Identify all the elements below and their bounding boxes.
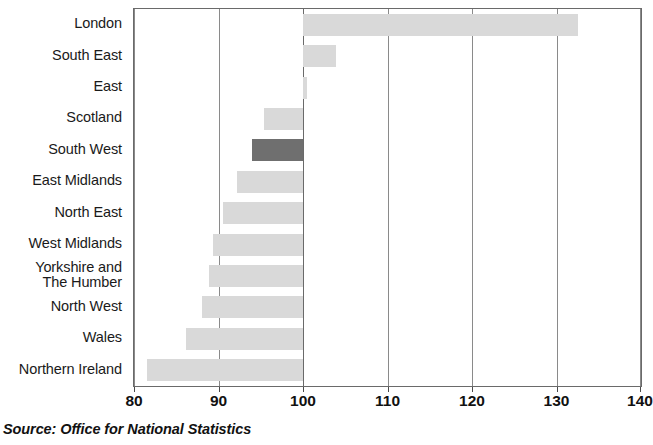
x-tick-label: 130	[544, 392, 570, 410]
category-label: North West	[51, 299, 122, 314]
category-label-column: LondonSouth EastEastScotlandSouth WestEa…	[0, 0, 128, 382]
bar[interactable]	[202, 296, 303, 318]
category-label: Wales	[83, 330, 122, 345]
category-label: East Midlands	[32, 173, 122, 188]
x-tick-label: 100	[290, 392, 316, 410]
bar[interactable]	[209, 265, 303, 287]
x-tick-label: 120	[459, 392, 485, 410]
bar-row	[134, 72, 641, 103]
bar[interactable]	[264, 108, 303, 130]
bar-row	[134, 135, 641, 166]
category-label: East	[93, 79, 122, 94]
x-tick-label: 80	[125, 392, 142, 410]
x-tick-label: 90	[210, 392, 227, 410]
bar-row	[134, 355, 641, 386]
plot-area	[133, 8, 642, 387]
category-label: North East	[55, 205, 123, 220]
bar-row	[134, 260, 641, 291]
bar-row	[134, 292, 641, 323]
bar-row	[134, 166, 641, 197]
category-label: Northern Ireland	[19, 362, 122, 377]
bar-row	[134, 229, 641, 260]
category-label: Scotland	[66, 110, 122, 125]
category-label: London	[74, 16, 122, 31]
category-label: South East	[52, 48, 122, 63]
category-label: South West	[48, 142, 122, 157]
bar-row	[134, 103, 641, 134]
bar[interactable]	[252, 139, 303, 161]
bar-row	[134, 323, 641, 354]
category-label: West Midlands	[28, 236, 122, 251]
x-tick-label: 140	[627, 392, 653, 410]
bar-row	[134, 40, 641, 71]
bar[interactable]	[303, 45, 336, 67]
bar[interactable]	[213, 234, 303, 256]
bar[interactable]	[303, 14, 578, 36]
bar[interactable]	[186, 328, 303, 350]
source-note: Source: Office for National Statistics	[3, 421, 251, 437]
x-tick-label: 110	[375, 392, 400, 410]
bar-row	[134, 9, 641, 40]
bar[interactable]	[147, 359, 303, 381]
bar[interactable]	[303, 77, 307, 99]
bar-row	[134, 198, 641, 229]
bar[interactable]	[223, 202, 303, 224]
bar[interactable]	[237, 171, 303, 193]
x-axis: 8090100110120130140	[133, 387, 642, 413]
category-label: Yorkshire and The Humber	[35, 260, 122, 290]
